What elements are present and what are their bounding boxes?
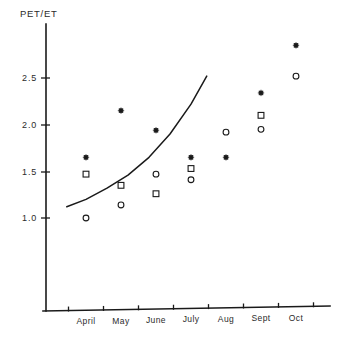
data-point-circle (223, 129, 229, 135)
series-star-markers (83, 42, 299, 160)
data-point-star (293, 42, 299, 48)
y-tick-label: 1.5 (22, 167, 37, 177)
data-point-star (118, 107, 124, 113)
data-point-circle (118, 202, 124, 208)
x-tick-label: July (183, 314, 200, 324)
data-point-circle (83, 215, 89, 221)
data-point-circle (258, 126, 264, 132)
chart-figure: PET/ET 2.5 2.0 1.5 1.0 AprilMayJuneJulyA… (0, 0, 345, 340)
data-point-star (83, 154, 89, 160)
y-axis-tick-labels: 2.5 2.0 1.5 1.0 (22, 73, 37, 223)
x-tick-label: Sept (251, 313, 270, 323)
x-tick-label: April (76, 316, 95, 326)
data-point-circle (188, 177, 194, 183)
chart-plot-area: PET/ET 2.5 2.0 1.5 1.0 AprilMayJuneJulyA… (0, 0, 345, 340)
data-point-star (153, 127, 159, 133)
x-tick-label: June (146, 315, 166, 325)
series-square-markers (83, 112, 264, 196)
x-tick-label: Oct (289, 313, 304, 323)
y-tick-label: 2.5 (22, 73, 37, 83)
data-point-square (118, 182, 124, 188)
y-tick-label: 2.0 (22, 120, 37, 130)
data-point-square (188, 166, 194, 172)
x-tick-label: Aug (218, 314, 234, 324)
y-axis-title: PET/ET (20, 8, 57, 19)
fitted-trend-curve (67, 76, 207, 207)
data-point-square (83, 171, 89, 177)
data-point-star (188, 154, 194, 160)
data-point-star (258, 90, 264, 96)
data-point-circle (293, 73, 299, 79)
x-axis-tick-labels: AprilMayJuneJulyAugSeptOct (76, 313, 303, 327)
data-point-circle (153, 171, 159, 177)
data-point-square (258, 112, 264, 118)
x-tick-label: May (112, 316, 130, 326)
data-point-square (153, 191, 159, 197)
series-circle-markers (83, 73, 299, 221)
x-axis-spine (43, 306, 330, 311)
data-point-star (223, 154, 229, 160)
y-tick-label: 1.0 (22, 213, 37, 223)
